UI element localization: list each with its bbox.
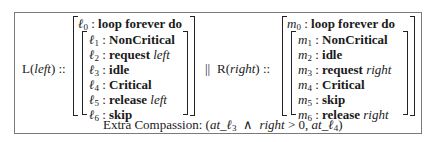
right-process-label: R(right) :: bbox=[217, 61, 270, 77]
left-inner-bracket-close bbox=[183, 31, 188, 115]
stmt-arg: right bbox=[366, 62, 391, 77]
loc-index: 3 bbox=[232, 123, 237, 133]
loc-symbol: m bbox=[287, 16, 296, 31]
loc-symbol: m bbox=[298, 32, 307, 47]
loc-index: 0 bbox=[83, 22, 88, 32]
right-stmt-3: m3 : request right bbox=[298, 62, 392, 77]
right-process-name: R bbox=[217, 61, 226, 76]
stmt-keyword: request bbox=[322, 62, 363, 77]
left-inner-block: ℓ1 : NonCritical ℓ2 : request left ℓ3 : … bbox=[89, 32, 175, 122]
left-outer-bracket-open bbox=[73, 16, 78, 116]
right-outer-line: m0 : loop forever do bbox=[287, 16, 395, 31]
left-process-label: L(left) :: bbox=[22, 61, 66, 77]
left-process-name: L bbox=[22, 61, 30, 76]
loc-symbol: m bbox=[298, 62, 307, 77]
left-process-colons: :: bbox=[55, 61, 65, 76]
loop-keyword: loop forever do bbox=[311, 16, 395, 31]
and-operator: ∧ bbox=[243, 117, 253, 132]
loop-keyword: loop forever do bbox=[98, 16, 182, 31]
left-outer-line: ℓ0 : loop forever do bbox=[78, 16, 182, 31]
stmt-keyword: release bbox=[109, 92, 147, 107]
left-stmt-5: ℓ5 : release left bbox=[89, 92, 175, 107]
stmt-arg: right bbox=[363, 107, 388, 122]
loc-index: 6 bbox=[94, 113, 99, 123]
left-outer-bracket-close bbox=[190, 16, 195, 116]
stmt-keyword: skip bbox=[322, 92, 345, 107]
loc-symbol: m bbox=[298, 47, 307, 62]
stmt-keyword: NonCritical bbox=[322, 32, 388, 47]
stmt-keyword: Critical bbox=[109, 77, 152, 92]
parallel-operator: || bbox=[205, 61, 210, 77]
left-stmt-2: ℓ2 : request left bbox=[89, 47, 175, 62]
at-predicate: at_ bbox=[210, 117, 227, 132]
right-stmt-1: m1 : NonCritical bbox=[298, 32, 392, 47]
loc-index: 0 bbox=[296, 22, 301, 32]
left-process-arg: left bbox=[34, 61, 51, 76]
stmt-arg: left bbox=[150, 92, 167, 107]
stmt-keyword: NonCritical bbox=[109, 32, 175, 47]
right-stmt-4: m4 : Critical bbox=[298, 77, 392, 92]
condition-variable: right bbox=[259, 117, 284, 132]
paren-close: ) bbox=[338, 117, 342, 132]
right-stmt-5: m5 : skip bbox=[298, 92, 392, 107]
right-stmt-2: m2 : idle bbox=[298, 47, 392, 62]
footer-label: Extra Compassion: bbox=[103, 117, 202, 132]
condition-rest: > 0, bbox=[285, 117, 309, 132]
at-predicate: at_ bbox=[312, 117, 329, 132]
loc-symbol: m bbox=[298, 77, 307, 92]
right-inner-bracket-open bbox=[291, 31, 296, 115]
left-stmt-3: ℓ3 : idle bbox=[89, 62, 175, 77]
left-inner-bracket-open bbox=[82, 31, 87, 115]
right-outer-bracket-open bbox=[282, 16, 287, 116]
stmt-keyword: request bbox=[109, 47, 150, 62]
right-inner-block: m1 : NonCritical m2 : idle m3 : request … bbox=[298, 32, 392, 122]
stmt-keyword: idle bbox=[322, 47, 342, 62]
right-inner-bracket-close bbox=[403, 31, 408, 115]
left-stmt-1: ℓ1 : NonCritical bbox=[89, 32, 175, 47]
left-stmt-4: ℓ4 : Critical bbox=[89, 77, 175, 92]
right-process-arg: right bbox=[230, 61, 255, 76]
stmt-keyword: idle bbox=[109, 62, 129, 77]
stmt-keyword: Critical bbox=[322, 77, 365, 92]
stmt-arg: left bbox=[153, 47, 170, 62]
loc-symbol: m bbox=[298, 92, 307, 107]
right-process-colons: :: bbox=[260, 61, 270, 76]
extra-compassion-footer: Extra Compassion: (at_ℓ3 ∧ right > 0, at… bbox=[103, 117, 342, 133]
right-outer-bracket-close bbox=[410, 16, 415, 116]
